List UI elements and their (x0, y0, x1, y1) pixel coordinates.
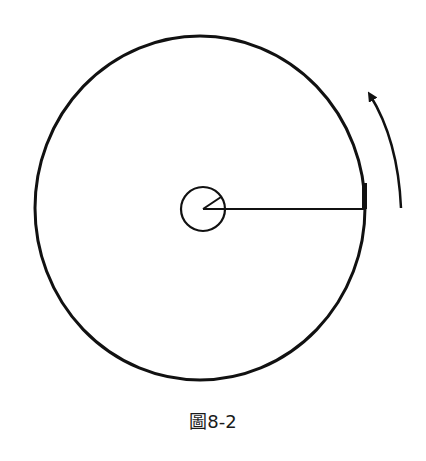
figure-caption: 圖8-2 (0, 407, 426, 433)
rotation-arrow-icon (370, 95, 401, 208)
hub-angle-line (203, 197, 221, 209)
rim-marker (362, 183, 367, 209)
diagram-canvas (0, 0, 426, 461)
